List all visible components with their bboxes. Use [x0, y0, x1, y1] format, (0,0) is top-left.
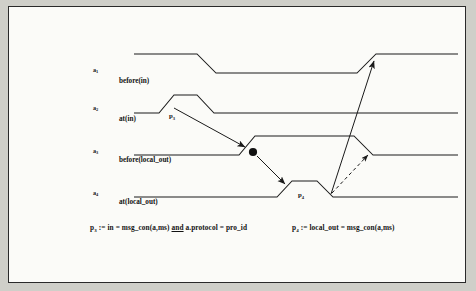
event-dot: [249, 148, 257, 156]
signal-description-a3: before(local_out): [119, 157, 171, 164]
signal-label-a4: a4: [93, 190, 98, 196]
formula-p3-connective: and: [172, 223, 184, 232]
signal-description-a1: before(in): [119, 78, 149, 85]
formula-p4: p4 := local_out = msg_con(a,ms): [292, 224, 395, 231]
waveform-a1: [134, 54, 458, 73]
signal-description-a4: at(local_out): [119, 199, 158, 206]
waveform-a4: [134, 181, 458, 197]
figure-page: a1 before(in) a2 at(in) a3 before(local_…: [0, 0, 476, 291]
figure-frame: a1 before(in) a2 at(in) a3 before(local_…: [8, 6, 466, 283]
signal-label-a2: a2: [93, 105, 98, 111]
signal-label-a3: a3: [93, 148, 98, 154]
predicate-mark-p3: p3: [169, 113, 175, 120]
arrow-a4-to-a1: [331, 61, 374, 194]
arrow-p3-to-a3: [174, 108, 245, 147]
waveform-a2: [134, 95, 458, 113]
arrow-a3-to-a4: [257, 156, 285, 184]
timing-diagram-canvas: [9, 7, 464, 281]
signal-label-a1: a1: [93, 67, 98, 73]
predicate-mark-p4: p4: [298, 192, 304, 199]
signal-description-a2: at(in): [119, 116, 136, 123]
waveform-a3: [134, 136, 458, 155]
formula-p3: p3 := in = msg_con(a,ms) and a.protocol …: [90, 224, 247, 231]
